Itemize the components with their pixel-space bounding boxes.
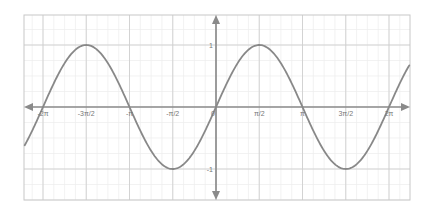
x-tick-label: π/2 — [254, 110, 265, 117]
plot-area: -2π-3π/2-π-π/20π/2π3π/22π 1-1 — [0, 0, 432, 205]
x-tick-label: π — [300, 110, 305, 117]
x-tick-label: 2π — [385, 110, 394, 117]
x-tick-label: 3π/2 — [338, 110, 353, 117]
x-tick-label: -3π/2 — [78, 110, 95, 117]
x-tick-label: -2π — [37, 110, 48, 117]
x-tick-label: -π/2 — [166, 110, 179, 117]
x-axis-right-arrow-icon — [401, 103, 410, 111]
y-tick-label: 1 — [209, 42, 213, 49]
x-tick-label: -π — [126, 110, 133, 117]
x-tick-label: 0 — [211, 110, 215, 117]
y-axis-down-arrow-icon — [212, 191, 220, 200]
x-axis-left-arrow-icon — [24, 103, 33, 111]
axes — [24, 15, 410, 200]
y-axis-up-arrow-icon — [212, 15, 220, 24]
sine-chart: -2π-3π/2-π-π/20π/2π3π/22π 1-1 — [0, 0, 432, 205]
y-tick-label: -1 — [207, 166, 213, 173]
